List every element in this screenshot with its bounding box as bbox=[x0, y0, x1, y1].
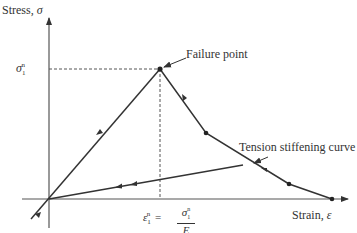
superscript: n bbox=[187, 206, 190, 212]
epsilon-expr: ε1n = bbox=[143, 210, 161, 226]
equals-sign: = bbox=[155, 211, 161, 223]
y-axis-label-text: Stress, bbox=[2, 3, 37, 17]
failure-point-label: Failure point bbox=[186, 47, 248, 62]
superscript: n bbox=[21, 61, 25, 69]
curve-point-marker bbox=[204, 131, 209, 136]
fraction-denominator: E bbox=[177, 224, 195, 233]
tension-stiffening-label: Tension stiffening curve bbox=[239, 140, 355, 155]
subscript: 1 bbox=[187, 214, 190, 220]
subscript: 1 bbox=[22, 69, 26, 77]
subscript: 1 bbox=[147, 218, 151, 226]
diagram-canvas bbox=[0, 0, 357, 233]
x-axis-label: Strain, ε bbox=[292, 208, 331, 223]
x-axis-label-text: Strain, bbox=[292, 208, 327, 222]
curve-end-marker bbox=[330, 197, 335, 202]
softening-curve bbox=[160, 69, 332, 199]
softening-direction-arrow-icon bbox=[261, 168, 267, 172]
fraction-numerator: σ1n bbox=[177, 203, 195, 224]
y-axis-label: Stress, σ bbox=[2, 3, 43, 18]
sigma-symbol: σ bbox=[37, 3, 43, 17]
epsilon-symbol: ε bbox=[327, 208, 332, 222]
failure-point-marker bbox=[157, 66, 162, 71]
fraction: σ1n E bbox=[177, 203, 195, 233]
superscript: n bbox=[147, 210, 151, 218]
unloading-line bbox=[49, 165, 243, 199]
loading-line bbox=[31, 69, 160, 219]
curve-point-marker bbox=[287, 182, 292, 187]
sigma-failure-label: σ1n bbox=[16, 61, 25, 77]
failure-leader-line bbox=[164, 58, 186, 67]
loading-direction-arrow-icon bbox=[96, 129, 103, 135]
tension-leader-line bbox=[254, 157, 268, 163]
